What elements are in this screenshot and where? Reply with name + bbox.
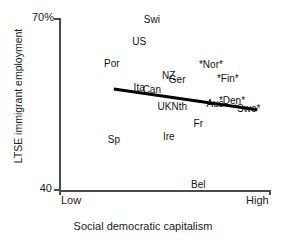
- scatter-plot-figure: 70% 40 Low High SwiUSPor*Nor*NZGer*Fin*I…: [0, 0, 286, 245]
- data-points-layer: SwiUSPor*Nor*NZGer*Fin*ItaCanAus*Den**Sw…: [0, 0, 286, 245]
- data-point-label: Por: [104, 59, 120, 69]
- data-point-label: Can: [143, 85, 161, 95]
- x-axis-title: Social democratic capitalism: [0, 220, 286, 232]
- data-point-label: Ire: [163, 132, 175, 142]
- data-point-label: Sp: [108, 135, 120, 145]
- data-point-label: Bel: [191, 180, 205, 190]
- data-point-label: *Fin*: [217, 74, 239, 84]
- data-point-label: Ger: [169, 75, 186, 85]
- data-point-label: Swi: [144, 15, 160, 25]
- y-axis-title: LTSE immigrant employment: [12, 16, 24, 176]
- data-point-label: *Swe*: [233, 104, 260, 114]
- data-point-label: UK: [158, 102, 172, 112]
- data-point-label: US: [132, 37, 146, 47]
- data-point-label: *Nor*: [199, 60, 223, 70]
- data-point-label: Nth: [171, 102, 187, 112]
- data-point-label: Fr: [194, 119, 203, 129]
